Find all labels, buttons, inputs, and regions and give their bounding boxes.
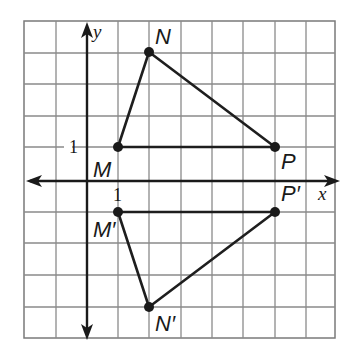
- y-tick-label-1: 1: [69, 137, 78, 157]
- vertex-p-prime: [270, 207, 280, 217]
- x-axis-label: x: [317, 183, 327, 204]
- grid: [24, 21, 335, 338]
- label-p: P: [281, 149, 296, 174]
- vertex-p: [270, 142, 280, 152]
- triangle-mnp-prime: M′ N′ P′: [93, 181, 301, 336]
- vertex-m-prime: [113, 207, 123, 217]
- y-axis-label: y: [91, 21, 102, 42]
- vertex-n: [144, 47, 154, 57]
- label-m: M: [93, 157, 112, 182]
- grid-border: [24, 21, 335, 338]
- label-p-prime: P′: [281, 181, 301, 206]
- label-n: N: [155, 24, 171, 49]
- vertex-m: [113, 142, 123, 152]
- triangle-mnp: M N P: [93, 24, 296, 182]
- label-m-prime: M′: [93, 217, 116, 242]
- x-tick-label-1: 1: [113, 185, 122, 205]
- label-n-prime: N′: [155, 311, 176, 336]
- coordinate-plane: y x 1 1 M N P M′ N′ P′: [0, 0, 362, 363]
- vertex-n-prime: [144, 302, 154, 312]
